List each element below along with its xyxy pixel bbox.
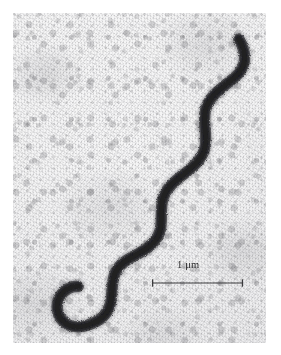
spirochete-cell [13, 13, 266, 343]
figure-container: 1 μm [0, 0, 281, 355]
scale-bar: 1 μm [151, 259, 246, 289]
micrograph-plate: 1 μm [13, 13, 266, 343]
scale-bar-rule [151, 279, 244, 287]
scale-bar-label: 1 μm [177, 259, 199, 271]
